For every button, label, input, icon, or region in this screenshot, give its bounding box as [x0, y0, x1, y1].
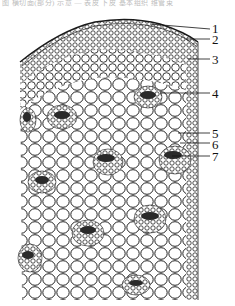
label-3: 3 — [212, 53, 219, 66]
vascular-bundle — [159, 146, 191, 174]
vascular-bundle — [72, 220, 104, 246]
vascular-bundle — [134, 86, 162, 108]
vascular-bundle — [28, 171, 56, 193]
vascular-bundle — [93, 149, 123, 175]
vascular-bundle — [47, 105, 77, 129]
stem-cross-section-diagram — [0, 0, 235, 306]
label-4: 4 — [212, 87, 219, 100]
label-2: 2 — [212, 33, 219, 46]
vascular-bundle — [122, 275, 150, 295]
vascular-bundle — [18, 244, 42, 272]
vascular-bundle — [20, 108, 36, 132]
label-7: 7 — [212, 150, 219, 163]
vascular-bundle — [134, 205, 166, 233]
